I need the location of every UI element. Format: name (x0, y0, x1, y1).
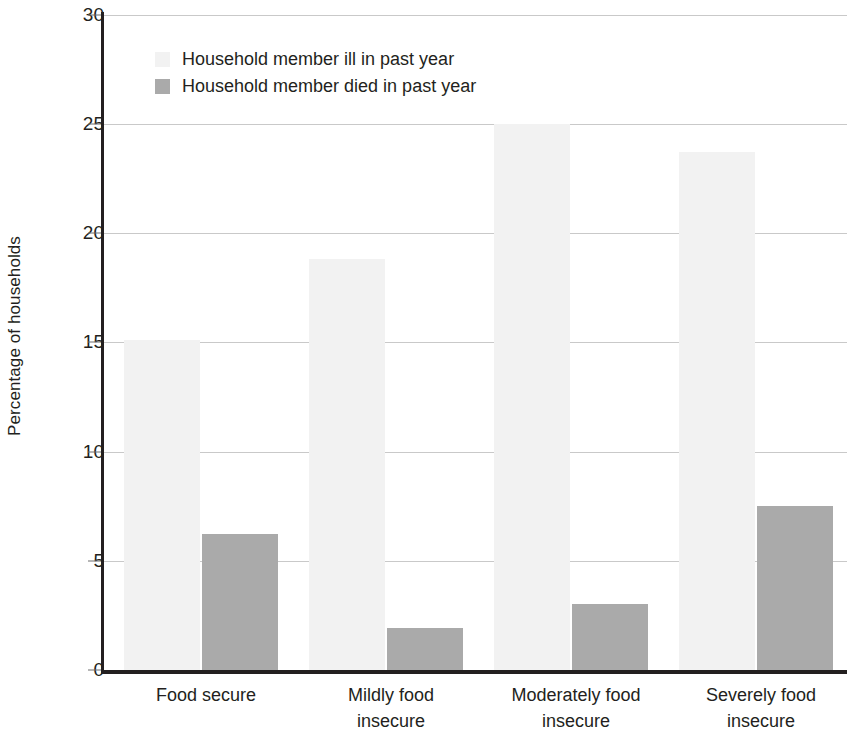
bar-group-moderately-food-insecure (494, 2, 658, 672)
x-label-mildly-food-insecure-line1: Mildly food (309, 682, 473, 708)
legend-item-ill: Household member ill in past year (155, 48, 476, 71)
x-label-severely-food-insecure-line1: Severely food (679, 682, 843, 708)
x-label-food-secure-line1: Food secure (124, 682, 288, 708)
bar-ill-moderately-food-insecure[interactable] (494, 124, 570, 672)
y-axis-ticks: 30 25 20 15 10 5 0 (0, 0, 104, 672)
y-tick-mark-15 (88, 342, 101, 343)
y-tick-mark-25 (88, 124, 101, 125)
y-tick-mark-0 (88, 670, 101, 671)
legend-label-ill: Household member ill in past year (182, 49, 454, 70)
bar-ill-severely-food-insecure[interactable] (679, 152, 755, 672)
bar-died-moderately-food-insecure[interactable] (572, 604, 648, 672)
bar-group-food-secure (124, 2, 288, 672)
bar-died-mildly-food-insecure[interactable] (387, 628, 463, 672)
y-tick-mark-10 (88, 452, 101, 453)
chart-legend: Household member ill in past year Househ… (155, 48, 476, 98)
x-label-mildly-food-insecure: Mildly food insecure (309, 682, 473, 734)
x-label-moderately-food-insecure-line1: Moderately food (492, 682, 660, 708)
x-label-severely-food-insecure-line2: insecure (679, 708, 843, 734)
bar-ill-food-secure[interactable] (124, 340, 200, 672)
legend-swatch-died-icon (155, 79, 170, 94)
plot-area (104, 0, 847, 672)
bar-group-severely-food-insecure (679, 2, 843, 672)
bar-died-food-secure[interactable] (202, 534, 278, 672)
y-tick-mark-20 (88, 233, 101, 234)
y-tick-mark-5 (88, 561, 101, 562)
x-label-severely-food-insecure: Severely food insecure (679, 682, 843, 734)
y-axis-line (101, 12, 104, 673)
x-label-moderately-food-insecure: Moderately food insecure (492, 682, 660, 734)
x-label-food-secure: Food secure (124, 682, 288, 708)
bar-chart: Percentage of households (0, 0, 847, 735)
legend-label-died: Household member died in past year (182, 76, 476, 97)
bar-died-severely-food-insecure[interactable] (757, 506, 833, 672)
legend-item-died: Household member died in past year (155, 75, 476, 98)
x-axis-labels: Food secure Mildly food insecure Moderat… (104, 682, 847, 735)
legend-swatch-ill-icon (155, 52, 170, 67)
x-label-moderately-food-insecure-line2: insecure (492, 708, 660, 734)
x-axis-line (101, 670, 847, 674)
bar-group-mildly-food-insecure (309, 2, 473, 672)
bar-ill-mildly-food-insecure[interactable] (309, 259, 385, 672)
x-label-mildly-food-insecure-line2: insecure (309, 708, 473, 734)
y-tick-mark-30 (88, 15, 101, 16)
